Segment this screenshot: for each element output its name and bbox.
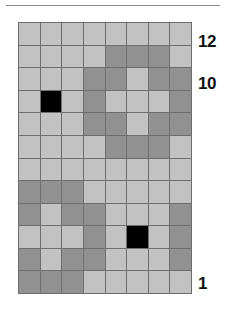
heatmap-cell: [127, 23, 148, 45]
figure-root: 12 10 1: [0, 0, 226, 317]
heatmap-cell: [41, 68, 62, 90]
heatmap-cell: [106, 249, 127, 271]
heatmap-cell: [19, 204, 40, 226]
heatmap-cell: [41, 159, 62, 181]
heatmap-cell: [41, 204, 62, 226]
heatmap-cell: [62, 204, 83, 226]
heatmap-cell: [127, 46, 148, 68]
heatmap-cell: [170, 136, 191, 158]
axis-label-12: 12: [198, 33, 224, 50]
top-divider-rule: [6, 5, 220, 6]
heatmap-cell: [41, 23, 62, 45]
heatmap-cell: [170, 113, 191, 135]
heatmap-cell: [19, 271, 40, 293]
heatmap-cell: [19, 113, 40, 135]
heatmap-cell: [170, 226, 191, 248]
heatmap-cell: [149, 226, 170, 248]
heatmap-cell: [149, 23, 170, 45]
heatmap-cell: [127, 136, 148, 158]
heatmap-cell: [106, 181, 127, 203]
heatmap-grid-container: [18, 22, 192, 294]
heatmap-cell: [41, 249, 62, 271]
heatmap-cell: [170, 46, 191, 68]
heatmap-cell: [84, 136, 105, 158]
heatmap-cell: [62, 226, 83, 248]
heatmap-cell: [170, 181, 191, 203]
heatmap-cell: [41, 91, 62, 113]
heatmap-cell: [62, 46, 83, 68]
heatmap-cell: [84, 46, 105, 68]
heatmap-cell: [62, 23, 83, 45]
heatmap-cell: [149, 204, 170, 226]
heatmap-cell: [84, 271, 105, 293]
heatmap-cell: [127, 204, 148, 226]
heatmap-cell: [19, 181, 40, 203]
heatmap-cell: [62, 91, 83, 113]
heatmap-cell: [170, 91, 191, 113]
heatmap-cell: [127, 159, 148, 181]
heatmap-cell: [84, 159, 105, 181]
heatmap-cell: [170, 271, 191, 293]
heatmap-cell: [106, 271, 127, 293]
heatmap-cell: [19, 136, 40, 158]
heatmap-cell: [170, 204, 191, 226]
heatmap-cell: [106, 136, 127, 158]
heatmap-cell: [19, 226, 40, 248]
heatmap-cell: [19, 249, 40, 271]
heatmap-cell: [106, 113, 127, 135]
heatmap-cell: [19, 23, 40, 45]
heatmap-cell: [62, 181, 83, 203]
axis-label-10: 10: [198, 75, 224, 92]
heatmap-cell: [62, 113, 83, 135]
heatmap-cell: [62, 136, 83, 158]
heatmap-cell: [149, 136, 170, 158]
heatmap-cell: [149, 181, 170, 203]
heatmap-cell: [106, 159, 127, 181]
heatmap-cell: [127, 91, 148, 113]
heatmap-cell: [149, 68, 170, 90]
heatmap-cell: [149, 159, 170, 181]
heatmap-cell: [149, 46, 170, 68]
heatmap-cell: [149, 249, 170, 271]
heatmap-cell: [127, 113, 148, 135]
heatmap-cell: [127, 226, 148, 248]
heatmap-cell: [84, 181, 105, 203]
heatmap-cell: [127, 181, 148, 203]
heatmap-cell: [149, 271, 170, 293]
heatmap-cell: [106, 226, 127, 248]
heatmap-cell: [19, 68, 40, 90]
heatmap-cell: [170, 159, 191, 181]
heatmap-cell: [106, 204, 127, 226]
heatmap-cell: [84, 113, 105, 135]
heatmap-cell: [84, 249, 105, 271]
heatmap-cell: [127, 68, 148, 90]
heatmap-cell: [106, 46, 127, 68]
heatmap-cell: [62, 68, 83, 90]
heatmap-cell: [170, 68, 191, 90]
heatmap-cell: [62, 159, 83, 181]
heatmap-cell: [106, 23, 127, 45]
heatmap-cell: [84, 91, 105, 113]
heatmap-cell: [106, 68, 127, 90]
heatmap-cell: [41, 181, 62, 203]
heatmap-cell: [41, 136, 62, 158]
heatmap-cell: [84, 23, 105, 45]
heatmap-cell: [170, 23, 191, 45]
heatmap-cell: [19, 46, 40, 68]
heatmap-cell: [149, 91, 170, 113]
heatmap-cell: [62, 249, 83, 271]
heatmap-cell: [106, 91, 127, 113]
heatmap-cell: [41, 226, 62, 248]
heatmap-cell: [149, 113, 170, 135]
heatmap-grid: [19, 23, 191, 293]
heatmap-cell: [19, 159, 40, 181]
heatmap-cell: [84, 204, 105, 226]
heatmap-cell: [127, 271, 148, 293]
heatmap-cell: [19, 91, 40, 113]
heatmap-cell: [41, 46, 62, 68]
heatmap-cell: [170, 249, 191, 271]
heatmap-cell: [62, 271, 83, 293]
heatmap-cell: [41, 271, 62, 293]
axis-label-1: 1: [198, 275, 224, 292]
heatmap-cell: [41, 113, 62, 135]
